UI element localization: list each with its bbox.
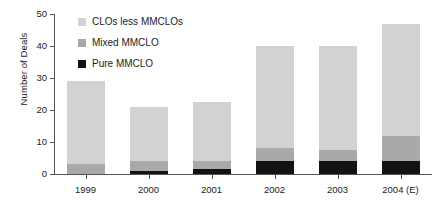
bar-segment (319, 150, 357, 161)
y-axis-tick: 40 (50, 46, 54, 47)
x-axis-tick-label: 2001 (201, 184, 222, 195)
y-axis-tick-label: 30 (36, 72, 47, 83)
bar-segment (382, 24, 420, 136)
x-axis-tick (275, 175, 276, 179)
legend-item: CLOs less MMCLOs (78, 13, 183, 30)
legend-swatch-icon (78, 18, 86, 26)
bar-segment (67, 81, 105, 164)
x-axis-tick (149, 175, 150, 179)
bar-segment (319, 161, 357, 174)
bar-segment (382, 161, 420, 174)
bar-segment (130, 171, 168, 174)
y-axis-tick: 50 (50, 14, 54, 15)
bar-segment (319, 46, 357, 150)
y-axis-tick-label: 50 (36, 8, 47, 19)
x-axis-tick-label: 2004 (E) (382, 184, 418, 195)
bar-segment (193, 169, 231, 174)
y-axis-title: Number of Deals (19, 9, 29, 129)
y-axis-tick: 0 (50, 174, 54, 175)
y-axis-tick-label: 20 (36, 104, 47, 115)
x-axis-line (54, 174, 432, 175)
bar-segment (130, 161, 168, 171)
bar-segment (193, 161, 231, 169)
bar-segment (382, 136, 420, 162)
x-axis-tick (401, 175, 402, 179)
bar-chart: Number of Deals 01020304050 199920002001… (0, 0, 444, 216)
chart-legend: CLOs less MMCLOsMixed MMCLOPure MMCLO (78, 13, 183, 76)
y-axis-tick-label: 40 (36, 40, 47, 51)
legend-item-label: Pure MMCLO (92, 58, 153, 69)
y-axis-tick-label: 0 (42, 168, 47, 179)
legend-item-label: Mixed MMCLO (92, 37, 159, 48)
bar-segment (130, 107, 168, 161)
x-axis-tick-label: 2000 (138, 184, 159, 195)
x-axis-tick-label: 1999 (75, 184, 96, 195)
x-axis-tick (212, 175, 213, 179)
bar-segment (256, 148, 294, 161)
y-axis-tick: 30 (50, 78, 54, 79)
legend-item-label: CLOs less MMCLOs (92, 16, 183, 27)
legend-item: Mixed MMCLO (78, 34, 183, 51)
y-axis-line (54, 14, 55, 175)
bar-segment (67, 164, 105, 174)
bar-segment (256, 161, 294, 174)
x-axis-tick-label: 2002 (264, 184, 285, 195)
y-axis-tick: 20 (50, 110, 54, 111)
x-axis-tick (338, 175, 339, 179)
bar-segment (193, 102, 231, 161)
y-axis-tick: 10 (50, 142, 54, 143)
x-axis-tick (86, 175, 87, 179)
bar-segment (256, 46, 294, 148)
y-axis-tick-label: 10 (36, 136, 47, 147)
x-axis-tick-label: 2003 (327, 184, 348, 195)
legend-item: Pure MMCLO (78, 55, 183, 72)
legend-swatch-icon (78, 39, 86, 47)
legend-swatch-icon (78, 60, 86, 68)
